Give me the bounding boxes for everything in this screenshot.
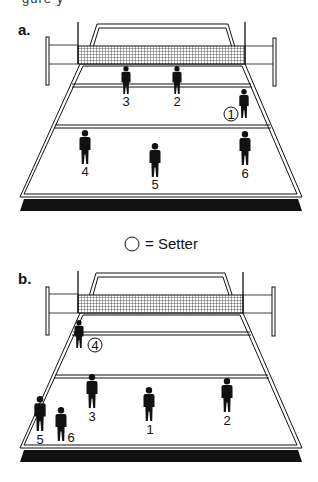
legend: = Setter: [125, 235, 198, 252]
player-number-label: 6: [241, 166, 248, 181]
panel-a-court: 321456 a.: [18, 21, 302, 211]
player-number-label: 1: [146, 422, 153, 437]
court-base: [20, 199, 302, 211]
player-number-label: 3: [122, 94, 129, 109]
player-number-label: 5: [151, 177, 158, 192]
player-number-label: 1: [227, 107, 234, 122]
panel-label-a: a.: [18, 21, 31, 38]
player-number-label: 3: [88, 409, 95, 424]
player-number-label: 2: [173, 94, 180, 109]
player-number-label: 2: [223, 413, 230, 428]
player-number-label: 4: [81, 164, 88, 179]
near-court: [20, 64, 302, 197]
player-number-label: 5: [36, 432, 43, 447]
left-pole: [46, 37, 78, 85]
panel-label-b: b.: [18, 270, 31, 287]
court-base: [20, 450, 302, 462]
player-number-label: 6: [67, 430, 74, 445]
panel-b-court: 431256 b.: [18, 270, 302, 462]
player-number-label: 4: [91, 338, 98, 353]
setter-circle-icon: [125, 237, 139, 251]
volleyball-rotation-diagram: 321456 a. = Setter: [0, 0, 318, 482]
legend-text: = Setter: [145, 235, 198, 252]
